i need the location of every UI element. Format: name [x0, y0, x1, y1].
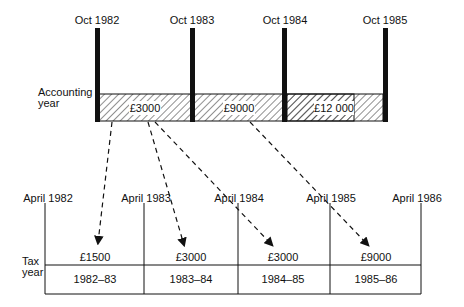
- oct-1982-label: Oct 1982: [75, 14, 120, 26]
- oct-1982-marker: [95, 28, 100, 122]
- tax-year-1983-84: 1983–84: [170, 273, 213, 285]
- arrow-to-1984-85: [155, 122, 272, 245]
- accounting-year-label-2: year: [38, 97, 59, 109]
- oct-1984-marker: [282, 28, 287, 122]
- april-1986-label: April 1986: [392, 192, 442, 204]
- oct-1984-label: Oct 1984: [263, 14, 308, 26]
- april-1985-label: April 1985: [306, 192, 356, 204]
- april-1982-label: April 1982: [23, 192, 73, 204]
- arrow-to-1982-83: [98, 122, 112, 243]
- oct-1985-marker: [383, 28, 388, 122]
- tax-year-1985-86: 1985–86: [355, 273, 398, 285]
- accounting-amount-1982: £3000: [130, 102, 161, 114]
- tax-amount-1984-85: £3000: [268, 251, 299, 263]
- april-1983-label: April 1983: [121, 192, 171, 204]
- april-1984-label: April 1984: [214, 192, 264, 204]
- tax-amount-1985-86: £9000: [361, 251, 392, 263]
- tax-year-1982-83: 1982–83: [74, 273, 117, 285]
- arrow-to-1983-84: [148, 122, 184, 245]
- oct-1983-marker: [190, 28, 195, 122]
- diagram-graphics: [0, 0, 464, 307]
- tax-amount-1983-84: £3000: [176, 251, 207, 263]
- accounting-amount-1984: £12 000: [314, 102, 354, 114]
- tax-year-label-2: year: [22, 266, 43, 278]
- tax-year-1984-85: 1984–85: [262, 273, 305, 285]
- accounting-amount-1983: £9000: [224, 102, 255, 114]
- arrow-to-1985-86: [250, 122, 368, 245]
- oct-1983-label: Oct 1983: [170, 14, 215, 26]
- oct-1985-label: Oct 1985: [363, 14, 408, 26]
- tax-amount-1982-83: £1500: [80, 251, 111, 263]
